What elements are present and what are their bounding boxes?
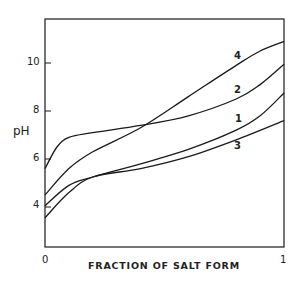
y-tick-10: 10	[27, 56, 40, 67]
curve-label-1: 1	[235, 113, 242, 124]
ph-chart	[0, 0, 298, 285]
x-tick-0: 0	[42, 254, 48, 265]
y-tick-marks	[45, 63, 51, 207]
curve-3	[45, 121, 284, 218]
x-tick-1: 1	[280, 254, 286, 265]
x-axis-label: FRACTION OF SALT FORM	[88, 260, 240, 271]
curve-label-2: 2	[234, 84, 241, 95]
curve-1	[45, 93, 284, 206]
y-tick-8: 8	[33, 104, 39, 115]
y-tick-4: 4	[33, 199, 39, 210]
curve-label-4: 4	[234, 50, 241, 61]
curve-2	[45, 64, 284, 168]
curve-label-3: 3	[234, 140, 241, 151]
curve-4	[45, 41, 284, 195]
y-tick-6: 6	[33, 152, 39, 163]
curves	[45, 41, 284, 217]
y-axis-label: pH	[13, 124, 30, 138]
plot-frame	[45, 19, 284, 247]
